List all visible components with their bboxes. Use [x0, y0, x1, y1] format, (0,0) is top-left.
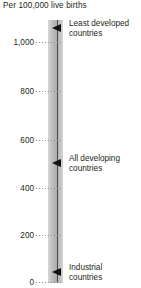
axis-tick-label: 200 — [20, 230, 34, 241]
marker-label: Least developed countries — [69, 19, 141, 38]
marker-label-line1: All developing — [69, 154, 120, 163]
axis-tick-label: 400 — [20, 183, 34, 194]
axis-tick-label: 800 — [20, 86, 34, 97]
marker-label: Industrial countries — [69, 263, 141, 282]
axis-tick-leader — [36, 188, 62, 189]
left-arrow-icon — [52, 268, 61, 276]
axis-tick-800: 800 — [0, 86, 62, 97]
marker-label-line1: Industrial — [69, 263, 102, 272]
marker-label-line2: countries — [69, 29, 141, 39]
axis-tick-1000: 1,000 — [0, 37, 62, 48]
axis-tick-200: 200 — [0, 230, 62, 241]
axis-tick-leader — [36, 282, 62, 283]
left-arrow-icon — [52, 24, 61, 32]
axis-tick-leader — [36, 91, 62, 92]
left-arrow-icon — [52, 159, 61, 167]
axis-tick-label: 600 — [20, 135, 34, 146]
marker-label-line1: Least developed — [69, 19, 129, 28]
axis-tick-0: 0 — [0, 277, 62, 288]
axis-tick-400: 400 — [0, 183, 62, 194]
axis-tick-label: 0 — [29, 277, 34, 288]
axis-tick-600: 600 — [0, 135, 62, 146]
marker-label: All developing countries — [69, 154, 141, 173]
axis-tick-leader — [36, 140, 62, 141]
axis-tick-leader — [36, 42, 62, 43]
marker-label-line2: countries — [69, 273, 141, 283]
axis-tick-label: 1,000 — [14, 37, 35, 48]
scale-gradient-column — [48, 20, 63, 283]
scale-center-line — [57, 20, 58, 283]
axis-tick-leader — [36, 235, 62, 236]
marker-label-line2: countries — [69, 164, 141, 174]
